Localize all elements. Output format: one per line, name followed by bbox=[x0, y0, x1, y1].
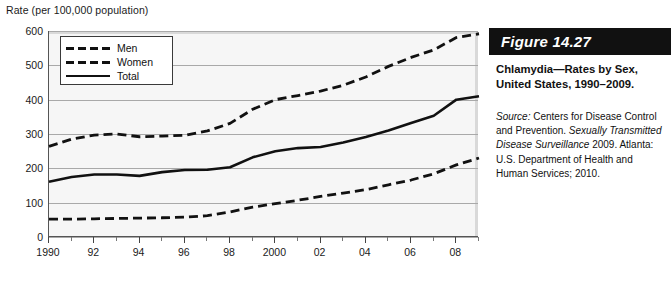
chart-area: Rate (per 100,000 population) 0100200300… bbox=[0, 0, 487, 281]
x-tick-label: 06 bbox=[404, 246, 416, 258]
legend-item-total: Total bbox=[66, 69, 167, 83]
x-tick-major bbox=[410, 237, 411, 243]
y-tick-label: 500 bbox=[3, 59, 43, 71]
legend-item-men: Men bbox=[66, 41, 167, 55]
legend-label-men: Men bbox=[117, 43, 137, 54]
figure-source: Source: Centers for Disease Control and … bbox=[496, 110, 662, 181]
x-tick-major bbox=[139, 237, 140, 243]
x-tick-label: 04 bbox=[359, 246, 371, 258]
x-tick-label: 92 bbox=[87, 246, 99, 258]
x-tick-major bbox=[93, 237, 94, 243]
legend-swatch-men-icon bbox=[66, 43, 110, 53]
x-tick-major bbox=[455, 237, 456, 243]
x-tick-major bbox=[365, 237, 366, 243]
x-tick-minor bbox=[71, 237, 72, 241]
x-tick-label: 1990 bbox=[36, 246, 59, 258]
y-tick-label: 200 bbox=[3, 162, 43, 174]
x-tick-minor bbox=[252, 237, 253, 241]
x-tick-minor bbox=[116, 237, 117, 241]
x-tick-label: 96 bbox=[178, 246, 190, 258]
legend-swatch-total-icon bbox=[66, 71, 110, 81]
x-axis-ticks bbox=[48, 237, 478, 244]
x-axis-tick-labels: 199092949698200002040608 bbox=[48, 246, 478, 262]
x-tick-minor bbox=[387, 237, 388, 241]
legend-swatch-women-icon bbox=[66, 57, 110, 67]
series-line-total bbox=[49, 96, 479, 181]
x-tick-major bbox=[184, 237, 185, 243]
figure-caption-title: Chlamydia—Rates by Sex, United States, 1… bbox=[496, 62, 662, 92]
y-axis-title: Rate (per 100,000 population) bbox=[6, 4, 148, 16]
y-tick-label: 600 bbox=[3, 25, 43, 37]
y-tick-label: 400 bbox=[3, 94, 43, 106]
legend-label-women: Women bbox=[117, 57, 153, 68]
x-tick-major bbox=[274, 237, 275, 243]
y-tick-label: 300 bbox=[3, 128, 43, 140]
y-axis-tick-labels: 0100200300400500600 bbox=[0, 31, 43, 237]
series-line-men bbox=[49, 158, 479, 219]
x-tick-label: 02 bbox=[314, 246, 326, 258]
panel-divider bbox=[487, 0, 488, 281]
figure-number-bar: Figure 14.27 bbox=[489, 28, 671, 55]
x-tick-major bbox=[320, 237, 321, 243]
figure-container: Rate (per 100,000 population) 0100200300… bbox=[0, 0, 671, 281]
x-tick-minor bbox=[161, 237, 162, 241]
figure-number-label: Figure 14.27 bbox=[501, 33, 591, 50]
x-tick-major bbox=[229, 237, 230, 243]
y-tick-label: 0 bbox=[3, 231, 43, 243]
source-label: Source: bbox=[496, 111, 530, 122]
x-tick-minor bbox=[478, 237, 479, 241]
x-tick-label: 94 bbox=[133, 246, 145, 258]
x-tick-minor bbox=[206, 237, 207, 241]
x-tick-major bbox=[48, 237, 49, 243]
x-tick-label: 98 bbox=[223, 246, 235, 258]
x-tick-minor bbox=[342, 237, 343, 241]
x-tick-label: 2000 bbox=[263, 246, 286, 258]
legend-item-women: Women bbox=[66, 55, 167, 69]
legend: Men Women Total bbox=[60, 36, 173, 85]
x-tick-label: 08 bbox=[450, 246, 462, 258]
caption-panel: Figure 14.27 Chlamydia—Rates by Sex, Uni… bbox=[487, 0, 671, 281]
x-tick-minor bbox=[433, 237, 434, 241]
x-tick-minor bbox=[297, 237, 298, 241]
y-tick-label: 100 bbox=[3, 197, 43, 209]
legend-label-total: Total bbox=[117, 71, 139, 82]
